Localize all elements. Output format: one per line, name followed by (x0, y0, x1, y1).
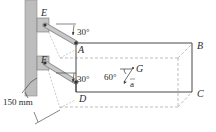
dimension-label: 150 mm (3, 97, 33, 107)
label-g: G (136, 63, 143, 74)
angle-lower-label: 30° (77, 74, 90, 84)
label-f: F (40, 54, 48, 65)
wall (25, 0, 37, 96)
plate-box (76, 43, 192, 92)
pin-e (43, 23, 46, 26)
label-a: A (77, 44, 85, 55)
label-d: D (78, 93, 87, 104)
angle-accel-label: 60° (104, 72, 117, 82)
accel-label: a (130, 79, 134, 89)
label-e: E (40, 7, 47, 18)
angle-upper-label: 30° (77, 27, 90, 37)
mechanism-diagram: E A F D B C G 30° 30° 60° a 150 mm (0, 0, 216, 132)
point-g (132, 67, 134, 69)
label-b: B (197, 40, 203, 51)
label-c: C (197, 88, 204, 99)
